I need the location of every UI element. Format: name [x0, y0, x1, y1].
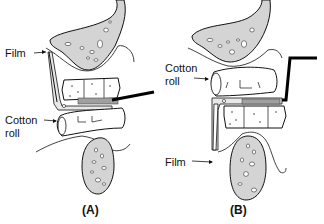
maxillary-bone	[50, 0, 125, 70]
mandibular-tooth	[224, 106, 286, 128]
panel-a-illustration	[0, 0, 162, 224]
panel-caption-a: (A)	[82, 203, 99, 217]
lower-soft-tissue	[36, 136, 130, 152]
film-label: Film	[165, 156, 186, 168]
cotton-roll-label-line1: Cotton	[165, 62, 197, 74]
maxillary-tooth	[62, 78, 120, 100]
cotton-roll-label-line2: roll	[5, 127, 20, 139]
bite-block	[242, 99, 280, 104]
indicator-rod	[280, 58, 317, 100]
film-label: Film	[5, 47, 26, 59]
mandible-bone	[82, 138, 114, 194]
cotton-roll	[57, 108, 125, 136]
cotton-roll-label-line2: roll	[165, 75, 180, 87]
cotton-roll-label-line1: Cotton	[5, 114, 37, 126]
panel-caption-b: (B)	[230, 203, 247, 217]
panel-b-illustration	[162, 0, 324, 224]
panel-a-maxillary-placement: Film Cotton roll (A)	[0, 0, 162, 224]
panel-b-mandibular-placement: Cotton roll Film (B)	[162, 0, 324, 224]
